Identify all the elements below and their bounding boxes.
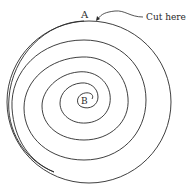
spiral-diagram: A B Cut here <box>0 0 189 185</box>
cut-arrow <box>98 11 143 19</box>
label-b: B <box>81 96 88 106</box>
cut-here-label: Cut here <box>146 12 186 22</box>
spiral-line <box>12 40 146 172</box>
label-a: A <box>80 9 89 20</box>
